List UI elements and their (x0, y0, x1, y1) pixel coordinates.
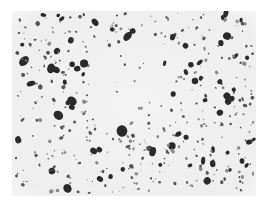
particle-field (12, 11, 256, 196)
image-frame (0, 0, 266, 203)
micrograph-image (12, 11, 256, 196)
